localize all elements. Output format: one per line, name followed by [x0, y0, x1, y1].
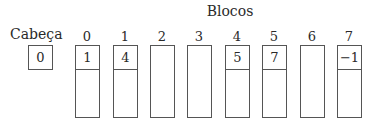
- block-index-label: 4: [225, 29, 249, 44]
- block-index-label: 5: [262, 29, 286, 44]
- block-index-label: 7: [337, 29, 361, 44]
- block-7: −1: [337, 45, 362, 118]
- head-label: Cabeça: [10, 26, 63, 42]
- next-pointer-cell: 7: [263, 46, 286, 70]
- block-3: [187, 45, 212, 118]
- block-0: 1: [75, 45, 100, 118]
- block-5: 7: [262, 45, 287, 118]
- block-index-label: 2: [150, 29, 174, 44]
- head-pointer-box: 0: [28, 45, 53, 70]
- block-2: [150, 45, 175, 118]
- block-1: 4: [113, 45, 138, 118]
- block-index-label: 3: [187, 29, 211, 44]
- next-pointer-cell: 1: [76, 46, 99, 70]
- block-4: 5: [225, 45, 250, 118]
- next-pointer-cell: 5: [226, 46, 249, 70]
- block-index-label: 1: [113, 29, 137, 44]
- block-index-label: 0: [75, 29, 99, 44]
- blocks-title: Blocos: [200, 3, 260, 19]
- block-index-label: 6: [300, 29, 324, 44]
- block-6: [300, 45, 325, 118]
- next-pointer-cell: −1: [338, 46, 361, 70]
- next-pointer-cell: 4: [114, 46, 137, 70]
